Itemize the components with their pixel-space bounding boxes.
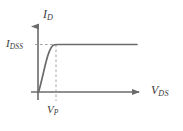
idss-tick-label: IDSS [6, 38, 23, 49]
jfet-drain-characteristic-figure: ID VDS IDSS VP [0, 0, 183, 131]
vp-label-subscript: P [54, 108, 59, 117]
vp-label-symbol: V [47, 103, 54, 115]
y-axis-label-subscript: D [47, 13, 53, 22]
x-axis-label-subscript: DS [158, 89, 168, 98]
y-axis-label-drain-current: ID [43, 8, 53, 20]
vp-tick-label: VP [47, 104, 59, 115]
idss-label-subscript: DSS [10, 42, 23, 51]
plot-canvas [0, 0, 183, 131]
x-axis-label-drain-source-voltage: VDS [151, 84, 169, 96]
drain-current-curve [38, 45, 137, 93]
